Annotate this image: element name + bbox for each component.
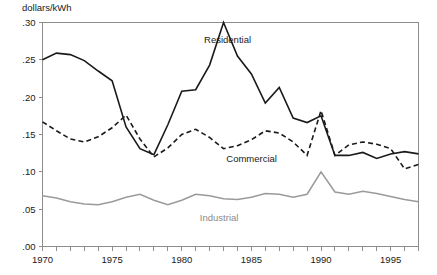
y-axis-unit-label: dollars/kWh: [22, 2, 72, 13]
series-label-residential: Residential: [204, 34, 251, 45]
series-label-commercial: Commercial: [226, 153, 277, 164]
y-tick-label: .05: [22, 204, 35, 215]
x-tick-label: 1970: [32, 254, 53, 265]
chart-container: dollars/kWh .00.05.10.15.20.25.30 197019…: [0, 0, 437, 275]
series-line-industrial: [43, 172, 419, 205]
series-annotation-labels: ResidentialCommercialIndustrial: [200, 34, 277, 223]
y-tick-label: .10: [22, 166, 35, 177]
y-tick-label: .25: [22, 54, 35, 65]
line-chart-figure: dollars/kWh .00.05.10.15.20.25.30 197019…: [0, 0, 437, 275]
x-axis-tick-labels: 197019751980198519901995: [32, 254, 401, 265]
y-axis-tick-marks: [39, 23, 43, 247]
x-tick-label: 1985: [241, 254, 262, 265]
x-tick-label: 1975: [102, 254, 123, 265]
x-tick-label: 1980: [171, 254, 192, 265]
y-axis-tick-labels: .00.05.10.15.20.25.30: [22, 17, 35, 252]
data-series-group: [43, 23, 419, 205]
x-tick-label: 1995: [380, 254, 401, 265]
x-axis-tick-marks: [43, 247, 419, 251]
y-tick-label: .20: [22, 92, 35, 103]
series-label-industrial: Industrial: [200, 212, 239, 223]
x-tick-label: 1990: [310, 254, 331, 265]
y-tick-label: .00: [22, 241, 35, 252]
y-tick-label: .30: [22, 17, 35, 28]
y-tick-label: .15: [22, 129, 35, 140]
